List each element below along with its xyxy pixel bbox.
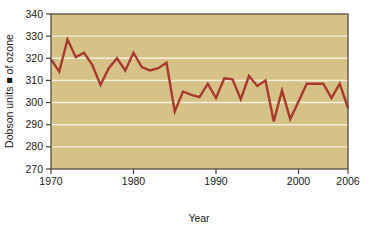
y-axis-tick-label: 340 bbox=[25, 8, 43, 20]
y-axis-tick-label: 270 bbox=[25, 163, 43, 175]
x-axis-tick-label: 1980 bbox=[122, 175, 146, 187]
x-axis: 19701980199020002006 bbox=[39, 169, 360, 187]
y-axis-tick-label: 290 bbox=[25, 118, 43, 130]
ozone-line-chart: 270280290300310320330340 197019801990200… bbox=[0, 0, 374, 232]
y-axis-title: Dobson units ■ of ozone bbox=[3, 34, 15, 148]
chart-canvas: 270280290300310320330340 197019801990200… bbox=[0, 0, 374, 232]
x-axis-tick-label: 2006 bbox=[336, 175, 360, 187]
y-axis-tick-label: 280 bbox=[25, 140, 43, 152]
x-axis-tick-label: 1970 bbox=[39, 175, 63, 187]
x-axis-title: Year bbox=[188, 212, 210, 224]
y-axis-tick-label: 330 bbox=[25, 30, 43, 42]
y-axis: 270280290300310320330340 bbox=[25, 8, 51, 175]
y-axis-tick-label: 310 bbox=[25, 74, 43, 86]
y-axis-tick-label: 300 bbox=[25, 96, 43, 108]
y-axis-tick-label: 320 bbox=[25, 52, 43, 64]
x-axis-tick-label: 2000 bbox=[287, 175, 311, 187]
x-axis-tick-label: 1990 bbox=[204, 175, 228, 187]
